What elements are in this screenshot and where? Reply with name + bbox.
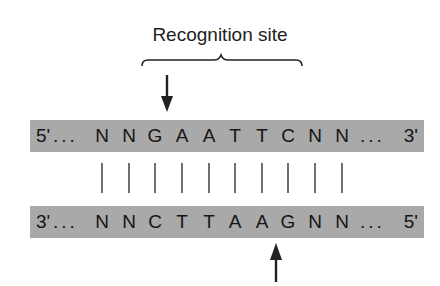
bottom-strand-5-prime-end: 5'	[404, 206, 418, 238]
bottom-left-ellipsis: ...	[53, 206, 78, 238]
top-cut-arrow-icon	[161, 75, 173, 112]
bottom-base-1: N	[92, 206, 112, 238]
top-base-4: A	[172, 120, 192, 152]
bottom-strand-3-prime-end: 3'	[36, 206, 50, 238]
top-base-5: A	[199, 120, 219, 152]
bottom-base-6: A	[225, 206, 245, 238]
top-base-3: G	[145, 120, 165, 152]
bottom-dna-strand: 3' ... N N C T T A A G N N ... 5'	[30, 206, 424, 238]
top-right-ellipsis: ...	[360, 120, 385, 152]
bottom-base-4: T	[172, 206, 192, 238]
top-strand-5-prime-end: 5'	[36, 120, 50, 152]
bottom-base-9: N	[305, 206, 325, 238]
top-base-8: C	[278, 120, 298, 152]
top-base-2: N	[119, 120, 139, 152]
top-base-1: N	[92, 120, 112, 152]
recognition-site-brace	[142, 55, 302, 66]
bottom-base-5: T	[199, 206, 219, 238]
top-base-7: T	[252, 120, 272, 152]
top-base-9: N	[305, 120, 325, 152]
base-pair-lines	[102, 163, 342, 193]
bottom-base-7: A	[252, 206, 272, 238]
bottom-base-8: G	[278, 206, 298, 238]
bottom-right-ellipsis: ...	[360, 206, 385, 238]
top-left-ellipsis: ...	[53, 120, 78, 152]
top-base-10: N	[332, 120, 352, 152]
top-base-6: T	[225, 120, 245, 152]
bottom-base-2: N	[119, 206, 139, 238]
bottom-base-3: C	[145, 206, 165, 238]
top-strand-3-prime-end: 3'	[404, 120, 418, 152]
bottom-cut-arrow-icon	[270, 243, 282, 282]
bottom-base-10: N	[332, 206, 352, 238]
top-dna-strand: 5' ... N N G A A T T C N N ... 3'	[30, 120, 424, 152]
